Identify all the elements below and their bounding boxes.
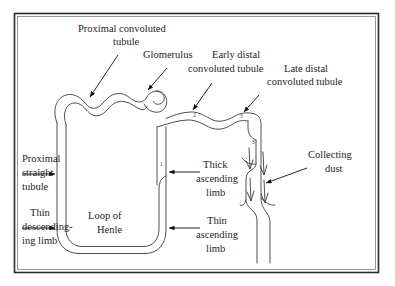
edct-line1: Early distal (212, 49, 260, 60)
collecting-duct-line2: dust (325, 163, 343, 174)
early-distal-convoluted-tubule-lower (157, 120, 248, 129)
late-distal-convoluted-tubule-right (253, 114, 261, 153)
label-late-distal-convoluted-tubule: Late distal convoluted tubule (267, 63, 343, 87)
leader-late-distal (244, 95, 259, 112)
label-thin-descending-limb: Thin descending- ing limb (22, 207, 73, 246)
thin-al-line3: limb (206, 243, 225, 254)
loh-line1: Loop of (88, 210, 122, 221)
marker-1: 1 (160, 161, 163, 167)
pst-line2: straight (22, 167, 54, 178)
leader-collecting-duct (266, 168, 307, 183)
tdl-line1: Thin (30, 207, 51, 218)
glomerulus-shape (147, 91, 165, 104)
flow-arrow-group (246, 148, 268, 203)
pst-line3: tubule (22, 181, 49, 192)
tdl-line3: ing limb (22, 235, 57, 246)
marker-2: 2 (193, 112, 196, 118)
pct-line1: Proximal convoluted (78, 23, 167, 34)
label-early-distal-convoluted-tubule: Early distal convoluted tubule (188, 49, 264, 74)
thick-al-line3: limb (206, 187, 225, 198)
edct-line2: convoluted tubule (188, 63, 264, 74)
label-loop-of-henle: Loop of Henle (88, 210, 122, 235)
thick-al-line2: ascending (196, 173, 239, 184)
label-glomerulus: Glomerulus (143, 49, 193, 60)
thick-al-line1: Thick (203, 159, 228, 170)
label-collecting-duct: Collecting dust (308, 149, 352, 174)
descending-limb-outer-wall (57, 123, 78, 254)
collecting-duct-branch-upper (242, 158, 256, 164)
collecting-duct-line1: Collecting (308, 149, 352, 160)
leader-early-distal (193, 83, 212, 110)
proximal-convoluted-tubule-inner (64, 101, 147, 124)
nephron-diagram: Proximal convoluted tubule Glomerulus Ea… (0, 0, 395, 286)
ldct-line1: Late distal (284, 63, 328, 74)
label-proximal-straight-tubule: Proximal straight tubule (22, 153, 61, 192)
late-distal-convoluted-tubule-left (248, 121, 256, 140)
marker-3-duct: 3 (252, 139, 255, 145)
pst-line1: Proximal (22, 153, 61, 164)
collecting-duct-left-wall (246, 140, 257, 263)
tdl-line2: descending- (22, 221, 73, 232)
label-proximal-convoluted-tubule: Proximal convoluted tubule (78, 23, 167, 47)
label-thin-ascending-limb: Thin ascending limb (196, 215, 239, 254)
label-thick-ascending-limb: Thick ascending limb (196, 159, 239, 198)
flow-arrow-1 (246, 148, 253, 169)
pct-line2: tubule (113, 36, 140, 47)
thin-al-line2: ascending (196, 229, 239, 240)
leader-glomerulus (148, 68, 167, 90)
flow-arrow-3 (247, 178, 254, 201)
thin-al-line1: Thin (207, 215, 228, 226)
marker-3-top: 3 (240, 113, 243, 119)
proximal-convoluted-tubule-outer (55, 93, 147, 123)
loh-line2: Henle (97, 224, 122, 235)
leader-proximal-convoluted-tubule (90, 55, 118, 97)
ldct-line2: convoluted tubule (267, 76, 343, 87)
collecting-duct-branch-lower (240, 200, 246, 206)
glomerulus-line1: Glomerulus (143, 49, 193, 60)
